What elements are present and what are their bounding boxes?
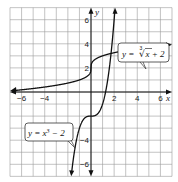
axes [10,8,172,177]
callout-cubic: y = x3 − 2 [25,123,75,148]
x-axis-label: x [165,93,170,103]
x-tick-label: 4 [135,94,140,103]
x-tick-label: 6 [158,94,163,103]
y-tick-label: 4 [85,40,90,49]
x-tick-label: −4 [40,94,50,103]
y-axis-label: y [94,7,99,17]
y-tick-label: 6 [85,16,90,25]
svg-text:y = x3 − 2: y = x3 − 2 [27,128,65,139]
y-tick-label: −4 [80,136,90,145]
y-tick-label: −6 [80,160,90,169]
y-tick-label: 2 [85,64,90,73]
x-tick-label: −6 [17,94,27,103]
radical-index: 3 [140,45,143,51]
svg-text:y =: y = [121,49,134,59]
svg-text:x + 2: x + 2 [145,49,166,59]
graph: −6−4246642−4−6 y x y = √ 3 x + 2 y = x3 … [0,0,178,182]
x-tick-label: 2 [112,94,117,103]
